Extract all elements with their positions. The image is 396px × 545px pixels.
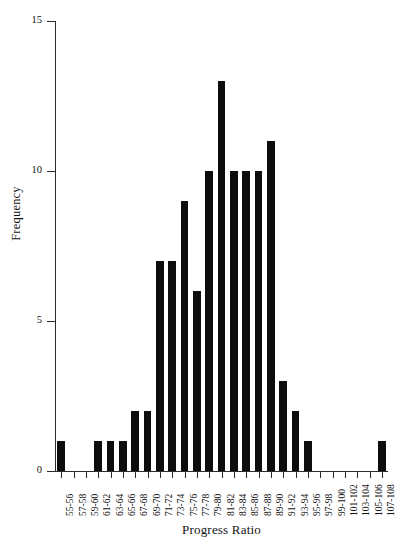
histogram-bar [144,411,152,471]
x-tick-label: 87-88 [263,494,273,516]
histogram-bar [193,291,201,471]
x-tick-label: 57-58 [78,494,88,516]
x-tick-mark [308,472,309,478]
histogram-bar [119,441,127,471]
histogram-bar [292,411,300,471]
x-tick-mark [86,472,87,478]
x-tick-label: 63-64 [115,494,125,516]
x-tick-label: 93-94 [300,494,310,516]
histogram-bar [378,441,386,471]
x-tick-label: 59-60 [90,494,100,516]
x-tick-mark [123,472,124,478]
histogram-bar [168,261,176,471]
histogram-bar [255,171,263,471]
x-tick-label: 75-76 [189,494,199,516]
x-tick-label: 95-96 [312,494,322,516]
x-tick-mark [246,472,247,478]
histogram-bar [230,171,238,471]
x-tick-mark [222,472,223,478]
x-tick-mark [283,472,284,478]
x-tick-mark [234,472,235,478]
x-tick-label: 65-66 [127,494,137,516]
x-tick-mark [111,472,112,478]
x-tick-mark [172,472,173,478]
x-tick-mark [357,472,358,478]
x-tick-label: 89-90 [275,494,285,516]
histogram-bar [218,81,226,471]
x-tick-mark [98,472,99,478]
x-tick-label: 105-106 [374,484,384,516]
x-tick-mark [345,472,346,478]
x-tick-label: 79-80 [213,494,223,516]
x-tick-mark [209,472,210,478]
histogram-bar [57,441,65,471]
x-tick-label: 103-104 [361,484,371,516]
x-tick-mark [382,472,383,478]
x-tick-label: 101-102 [349,484,359,516]
x-tick-label: 91-92 [287,494,297,516]
x-tick-label: 83-84 [238,494,248,516]
x-tick-mark [61,472,62,478]
x-tick-label: 97-98 [324,494,334,516]
histogram-bar [94,441,102,471]
x-tick-mark [160,472,161,478]
x-tick-mark [197,472,198,478]
histogram-bar [304,441,312,471]
histogram-bar [267,141,275,471]
x-tick-mark [259,472,260,478]
x-tick-label: 99-100 [337,489,347,516]
x-tick-label: 77-78 [201,494,211,516]
x-tick-label: 61-62 [102,494,112,516]
histogram-bar [205,171,213,471]
histogram-bar [279,381,287,471]
x-tick-mark [185,472,186,478]
histogram-bar [242,171,250,471]
x-tick-label: 85-86 [250,494,260,516]
x-tick-mark [320,472,321,478]
x-tick-label: 81-82 [226,494,236,516]
histogram-bar [156,261,164,471]
x-tick-mark [333,472,334,478]
x-tick-label: 71-72 [164,494,174,516]
histogram-bar [181,201,189,471]
histogram-bar [131,411,139,471]
x-tick-label: 107-108 [386,484,396,516]
x-tick-label: 67-68 [139,494,149,516]
x-tick-mark [296,472,297,478]
x-tick-mark [148,472,149,478]
x-tick-label: 69-70 [152,494,162,516]
histogram-bar [107,441,115,471]
x-tick-mark [370,472,371,478]
x-tick-mark [135,472,136,478]
x-axis-title: Progress Ratio [55,522,388,538]
x-tick-label: 73-74 [176,494,186,516]
x-tick-mark [271,472,272,478]
x-tick-mark [74,472,75,478]
x-tick-label: 55-56 [65,494,75,516]
